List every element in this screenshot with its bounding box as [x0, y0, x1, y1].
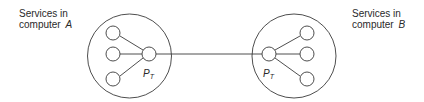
computer-b-label: Services in computer B	[352, 8, 405, 30]
computer-b-port-label: PT	[263, 68, 275, 80]
computer-b-service-2	[300, 47, 314, 61]
computer-a-service-2	[106, 47, 120, 61]
computer-a-port-label: PT	[143, 68, 155, 80]
computer-b-letter: B	[398, 19, 405, 30]
computer-a-edge-1	[120, 36, 143, 50]
computer-a-edge-3	[120, 58, 143, 76]
computer-a-boundary	[88, 14, 172, 98]
computer-a-port	[142, 47, 156, 61]
service-connection-diagram: Services in computer A Services in compu…	[0, 0, 424, 102]
computer-a-service-3	[106, 72, 120, 86]
computer-b: PT	[252, 14, 336, 98]
computer-b-service-3	[300, 72, 314, 86]
computer-b-label-line1: Services in	[352, 8, 401, 19]
computer-b-port	[262, 47, 276, 61]
computer-b-service-1	[300, 26, 314, 40]
computer-a-label-line2: computer A	[19, 19, 72, 30]
computer-b-label-prefix: computer	[352, 19, 396, 30]
computer-a: PT	[88, 14, 172, 98]
computer-a-label-line1: Services in	[19, 8, 68, 19]
computer-a-letter: A	[64, 19, 72, 30]
computer-b-edge-3	[275, 58, 300, 76]
computer-a-service-1	[106, 26, 120, 40]
computer-a-label-prefix: computer	[19, 19, 63, 30]
computer-b-label-line2: computer B	[352, 19, 405, 30]
computer-a-label: Services in computer A	[19, 8, 72, 30]
computer-b-edge-1	[275, 36, 300, 50]
